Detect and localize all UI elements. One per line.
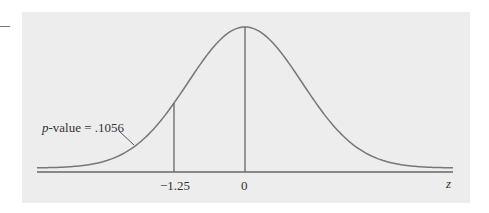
- p-value-annotation: p-value = .1056: [42, 120, 124, 136]
- x-axis-label: z: [446, 176, 451, 192]
- tick-label-0: 0: [241, 178, 248, 194]
- tick-label-neg-1-25: −1.25: [160, 178, 190, 194]
